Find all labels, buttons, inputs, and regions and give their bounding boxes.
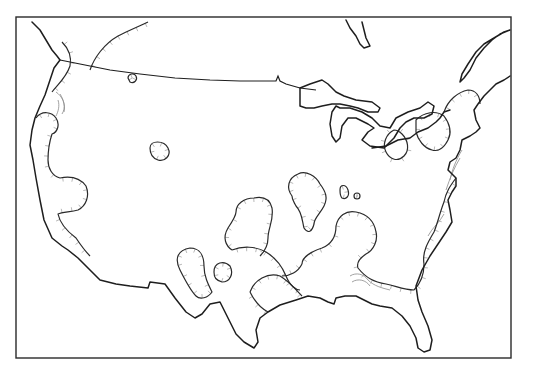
contour-map <box>0 0 543 367</box>
map-canvas <box>0 0 543 367</box>
map-background <box>0 0 543 367</box>
